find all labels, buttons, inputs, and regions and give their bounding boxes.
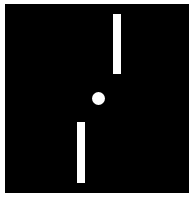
- ball: [92, 92, 105, 105]
- paddle-top: [113, 14, 121, 74]
- paddle-bottom: [77, 122, 85, 183]
